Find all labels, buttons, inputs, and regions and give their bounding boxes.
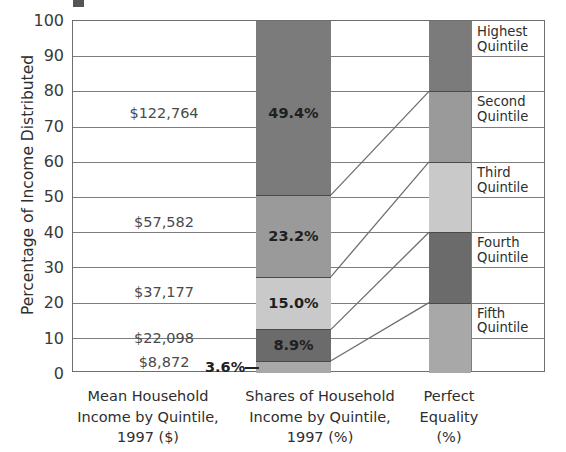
quintile-label-divider [471,21,472,371]
y-tick-60: 60 [18,154,64,170]
quintile-label-fifth: Fifth Quintile [477,307,545,337]
quintile-label-fourth: Fourth Quintile [477,236,545,266]
quintile-label-third-line2: Quintile [477,181,545,196]
x-caption-mean-income-line1: Mean Household [53,386,243,407]
y-tick-70: 70 [18,119,64,135]
quintile-label-second: Second Quintile [477,95,545,125]
y-tick-30: 30 [18,260,64,276]
y-tick-50: 50 [18,189,64,205]
quintile-label-third-line1: Third [477,166,545,181]
mean-income-label-second: $57,582 [74,214,254,230]
y-tick-40: 40 [18,225,64,241]
quintile-label-highest-line2: Quintile [477,40,545,55]
leader-line-3point6 [245,367,259,369]
y-tick-80: 80 [18,83,64,99]
y-tick-90: 90 [18,48,64,64]
y-tick-0: 0 [18,366,64,382]
equality-segment-third [429,162,471,232]
equality-segment-highest [429,21,471,91]
quintile-label-second-line2: Quintile [477,110,545,125]
y-tick-20: 20 [18,295,64,311]
share-value-fourth: 8.9% [256,337,331,353]
equality-segment-fourth [429,232,471,302]
cropped-title-glyph [73,0,84,7]
share-segment-fifth [256,361,331,373]
y-axis-tick-list: 100 90 80 70 60 50 40 30 20 10 0 [18,0,64,452]
quintile-label-fourth-line2: Quintile [477,251,545,266]
quintile-label-fourth-line1: Fourth [477,236,545,251]
mean-income-label-third: $37,177 [74,284,254,300]
quintile-label-third: Third Quintile [477,166,545,196]
x-caption-perfect-equality-line3: (%) [354,427,544,448]
share-value-second: 23.2% [256,228,331,244]
y-tick-100: 100 [18,13,64,29]
share-value-fifth: 3.6% [205,359,245,375]
quintile-label-fifth-line2: Quintile [477,321,545,336]
x-caption-mean-income-line3: 1997 ($) [53,427,243,448]
x-caption-mean-income: Mean Household Income by Quintile, 1997 … [53,386,243,448]
x-caption-perfect-equality: Perfect Equality (%) [354,386,544,448]
share-value-highest: 49.4% [256,105,331,121]
leader-line-left-22098 [91,338,127,339]
equality-segment-second [429,91,471,161]
quintile-label-second-line1: Second [477,95,545,110]
x-caption-mean-income-line2: Income by Quintile, [53,407,243,428]
x-caption-perfect-equality-line2: Equality [354,407,544,428]
quintile-label-highest: Highest Quintile [477,25,545,55]
income-distribution-chart: Percentage of Income Distributed 100 90 … [0,0,566,452]
x-caption-perfect-equality-line1: Perfect [354,386,544,407]
quintile-label-highest-line1: Highest [477,25,545,40]
quintile-label-fifth-line1: Fifth [477,307,545,322]
y-tick-10: 10 [18,331,64,347]
leader-line-right-22098 [211,338,255,339]
plot-area: $122,764 $57,582 $37,177 $22,098 $8,872 … [72,20,545,372]
mean-income-label-highest: $122,764 [74,105,254,121]
equality-segment-fifth [429,303,471,373]
share-value-third: 15.0% [256,295,331,311]
